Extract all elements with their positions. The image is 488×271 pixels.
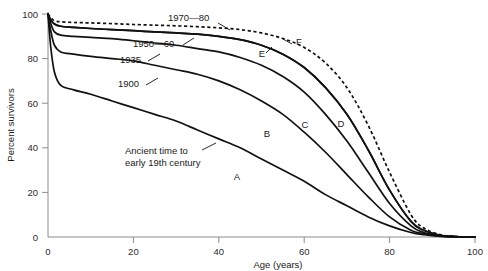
x-axis-ticks: 0 20 40 60 80 100 xyxy=(45,237,483,257)
curve-letter-C: C xyxy=(302,119,309,130)
x-tick-label-40: 40 xyxy=(214,246,225,257)
x-tick-label-100: 100 xyxy=(467,246,483,257)
annotation-line-2: early 19th century xyxy=(125,157,201,168)
leader-line-1950-60 xyxy=(183,38,194,45)
curve-letter-A: A xyxy=(234,171,241,182)
y-tick-label-20: 20 xyxy=(27,187,38,198)
y-tick-label-100: 100 xyxy=(22,9,38,20)
y-axis-ticks: 100 80 60 40 20 0 xyxy=(22,9,48,243)
ancient-time-annotation: Ancient time to early 19th century xyxy=(125,143,216,168)
series-label-1970-80: 1970—80 xyxy=(168,12,209,23)
annotation-line-1: Ancient time to xyxy=(125,145,188,156)
x-tick-label-20: 20 xyxy=(128,246,139,257)
chart-canvas: 100 80 60 40 20 0 0 20 40 60 80 100 Age … xyxy=(0,0,488,271)
y-tick-label-60: 60 xyxy=(27,98,38,109)
y-tick-label-0: 0 xyxy=(33,232,38,243)
x-tick-label-0: 0 xyxy=(45,246,50,257)
x-tick-label-80: 80 xyxy=(384,246,395,257)
y-tick-label-80: 80 xyxy=(27,53,38,64)
survivorship-curve-figure: 100 80 60 40 20 0 0 20 40 60 80 100 Age … xyxy=(0,0,488,271)
curve-letter-B: B xyxy=(264,128,270,139)
series-label-1950-60: 1950—60 xyxy=(133,38,174,49)
curve-letter-D: D xyxy=(338,118,345,129)
y-axis-title: Percent survivors xyxy=(5,88,16,162)
leader-line-ancient-time xyxy=(202,143,216,150)
x-tick-label-60: 60 xyxy=(299,246,310,257)
series-label-1935: 1935 xyxy=(120,54,141,65)
leader-line-1900 xyxy=(146,78,158,85)
curve-letter-F: F xyxy=(296,36,302,47)
leader-line-1970-80 xyxy=(218,23,230,30)
curve-letter-E: E xyxy=(259,48,265,59)
leader-line-1935 xyxy=(148,54,160,61)
y-tick-label-40: 40 xyxy=(27,142,38,153)
series-label-1900: 1900 xyxy=(118,78,139,89)
x-axis-title: Age (years) xyxy=(253,259,302,270)
